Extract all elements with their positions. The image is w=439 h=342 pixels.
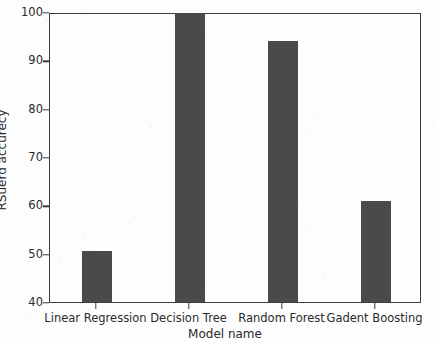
noise-speck — [84, 327, 85, 328]
x-tick-label: Linear Regression — [44, 311, 146, 325]
bar-chart-figure: 405060708090100 RSuerd accurecy Linear R… — [0, 0, 439, 342]
x-tick-mark — [374, 303, 375, 309]
y-tick-label: 80 — [3, 104, 43, 116]
y-tick-label: 50 — [3, 249, 43, 261]
noise-speck — [33, 133, 34, 134]
y-tick-label: 90 — [3, 56, 43, 68]
noise-speck — [426, 156, 427, 157]
y-tick-label: 60 — [3, 201, 43, 213]
y-tick-label: 70 — [3, 152, 43, 164]
x-tick-mark — [95, 303, 96, 309]
noise-speck — [27, 315, 29, 317]
bar — [361, 201, 391, 303]
plot-area — [49, 13, 421, 303]
y-tick-label: 40 — [3, 297, 43, 309]
x-axis-label: Model name — [188, 327, 262, 341]
bar — [268, 41, 298, 302]
bar-series — [50, 14, 420, 302]
x-tick-label: Gadent Boosting — [326, 311, 422, 325]
x-tick-label: Random Forest — [238, 311, 325, 325]
y-axis-label: RSuerd accurecy — [0, 75, 9, 245]
noise-speck — [46, 19, 48, 21]
noise-speck — [7, 329, 8, 330]
noise-speck — [435, 240, 436, 241]
x-tick-mark — [281, 303, 282, 309]
x-tick-label: Decision Tree — [150, 311, 227, 325]
y-tick-label: 100 — [3, 7, 43, 19]
noise-speck — [213, 2, 214, 3]
noise-speck — [432, 124, 434, 126]
x-tick-mark — [188, 303, 189, 309]
bar — [175, 13, 205, 302]
bar — [82, 251, 112, 302]
